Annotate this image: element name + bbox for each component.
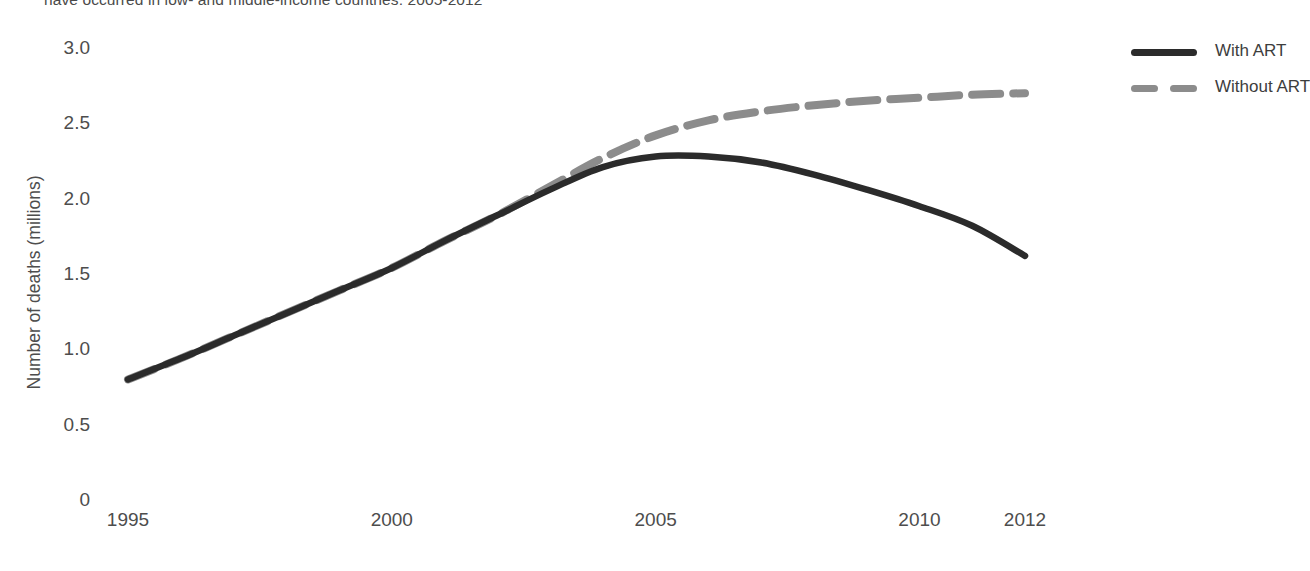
chart-legend: With ART Without ART [1131,38,1297,110]
legend-label-with-art: With ART [1215,41,1286,61]
legend-swatch-solid-icon [1131,49,1197,56]
series-line-without-art [128,93,1025,379]
series-line-with-art [128,155,1025,379]
legend-item-with-art[interactable]: With ART [1131,38,1297,74]
legend-item-without-art[interactable]: Without ART [1131,74,1297,110]
legend-label-without-art: Without ART [1215,77,1310,97]
data-series-group [128,93,1025,379]
legend-swatch-dashed-icon [1131,85,1197,92]
